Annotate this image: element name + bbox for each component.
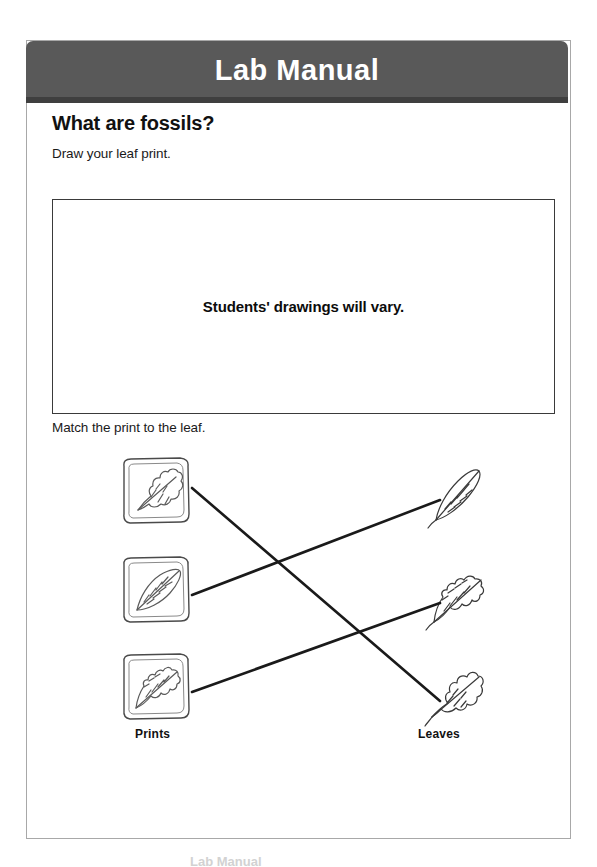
- connection-line-1[interactable]: [192, 488, 440, 701]
- draw-instruction: Draw your leaf print.: [52, 146, 552, 161]
- leaf-item-3[interactable]: [425, 672, 483, 726]
- column-label-leaves: Leaves: [418, 727, 460, 741]
- match-instruction: Match the print to the leaf.: [52, 420, 205, 435]
- section-heading: What are fossils?: [52, 112, 552, 135]
- page-title: Lab Manual: [215, 54, 380, 87]
- cutoff-text-strip: Lab Manual: [190, 857, 410, 867]
- print-item-3[interactable]: [124, 654, 189, 719]
- cutoff-text: Lab Manual: [190, 857, 410, 867]
- column-label-prints: Prints: [135, 727, 170, 741]
- connection-lines: [192, 488, 440, 701]
- drawing-answer-box[interactable]: Students' drawings will vary.: [52, 199, 555, 414]
- leaf-item-1[interactable]: [428, 470, 480, 528]
- print-item-1[interactable]: [124, 458, 189, 523]
- header-banner: Lab Manual: [26, 41, 568, 103]
- matching-activity: [26, 440, 571, 770]
- narrow-smooth-leaf-drawing: [428, 470, 480, 528]
- content-area: What are fossils? Draw your leaf print.: [52, 112, 552, 161]
- print-item-2[interactable]: [124, 557, 189, 622]
- leaf-item-2[interactable]: [426, 576, 484, 630]
- wavy-toothed-leaf-drawing: [426, 576, 484, 630]
- matching-diagram: [26, 440, 571, 770]
- connection-line-2[interactable]: [192, 500, 440, 595]
- drawing-box-answer-text: Students' drawings will vary.: [203, 298, 404, 315]
- connection-line-3[interactable]: [192, 603, 440, 692]
- lobed-leaf-right-drawing: [425, 672, 483, 726]
